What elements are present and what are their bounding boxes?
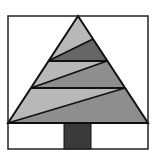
- tree-trunk: [64, 123, 91, 149]
- pine-tree-quilt-block: [0, 0, 158, 156]
